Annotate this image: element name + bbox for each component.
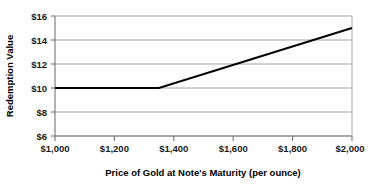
y-tick-label-10: $10: [31, 83, 47, 94]
x-tick-label-2000: $2,000: [335, 143, 364, 154]
x-tick-label-1800: $1,800: [278, 143, 307, 154]
y-tick-label-8: $8: [36, 107, 47, 118]
y-tick-label-16: $16: [31, 11, 47, 22]
y-tick-label-14: $14: [31, 35, 48, 46]
x-tick-labels: $1,000 $1,200 $1,400 $1,600 $1,800 $2,00…: [40, 143, 364, 154]
x-tick-label-1000: $1,000: [40, 143, 69, 154]
data-series-line: [55, 28, 352, 88]
y-axis-title: Redemption Value: [4, 35, 15, 117]
x-axis-ticks: [55, 136, 352, 141]
x-tick-label-1600: $1,600: [219, 143, 248, 154]
axis-lines: [55, 16, 352, 136]
chart-container: $16 $14 $12 $10 $8 $6 $1,000 $1,200 $1,4…: [0, 0, 380, 187]
line-chart: $16 $14 $12 $10 $8 $6 $1,000 $1,200 $1,4…: [0, 0, 380, 187]
y-tick-labels: $16 $14 $12 $10 $8 $6: [31, 11, 48, 142]
x-axis-title: Price of Gold at Note's Maturity (per ou…: [105, 167, 300, 178]
grid-lines: [55, 16, 352, 136]
x-tick-label-1200: $1,200: [100, 143, 129, 154]
y-tick-label-6: $6: [36, 131, 47, 142]
x-tick-label-1400: $1,400: [159, 143, 188, 154]
y-tick-label-12: $12: [31, 59, 47, 70]
